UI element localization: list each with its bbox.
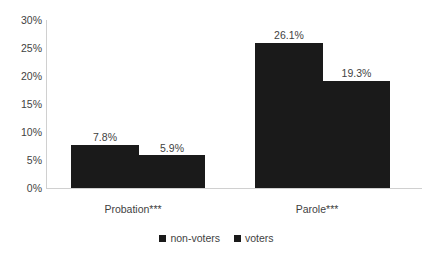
x-axis-category-probation: Probation*** xyxy=(61,203,205,215)
legend-swatch-icon xyxy=(234,235,241,242)
data-label-parole-voters: 19.3% xyxy=(323,68,390,79)
data-label-probation-non-voters: 7.8% xyxy=(71,132,139,143)
chart-legend: non-voters voters xyxy=(0,233,433,244)
bar-probation-non-voters xyxy=(71,145,139,188)
data-label-parole-non-voters: 26.1% xyxy=(255,30,323,41)
bar-parole-non-voters xyxy=(255,43,323,188)
legend-item-non-voters[interactable]: non-voters xyxy=(159,233,220,244)
legend-label-voters: voters xyxy=(245,233,274,244)
y-axis-tick-5: 5% xyxy=(2,155,42,166)
x-axis-category-parole: Parole*** xyxy=(245,203,389,215)
bar-parole-voters xyxy=(323,81,390,188)
bar-probation-voters xyxy=(139,155,205,188)
y-axis-tick-20: 20% xyxy=(2,71,42,82)
data-label-probation-voters: 5.9% xyxy=(139,143,205,154)
y-axis-tick-30: 30% xyxy=(2,15,42,26)
y-axis-tick-0: 0% xyxy=(2,183,42,194)
legend-label-non-voters: non-voters xyxy=(170,233,220,244)
y-axis-tick-15: 15% xyxy=(2,99,42,110)
legend-item-voters[interactable]: voters xyxy=(234,233,274,244)
y-axis-tick-labels: 30% 25% 20% 15% 10% 5% 0% xyxy=(0,0,42,257)
x-axis-line xyxy=(46,188,422,189)
bar-chart: 30% 25% 20% 15% 10% 5% 0% 7.8% 5.9% 26.1… xyxy=(0,0,433,257)
legend-swatch-icon xyxy=(159,235,166,242)
y-axis-tick-25: 25% xyxy=(2,43,42,54)
plot-area: 7.8% 5.9% 26.1% 19.3% xyxy=(47,21,421,188)
y-axis-tick-10: 10% xyxy=(2,127,42,138)
